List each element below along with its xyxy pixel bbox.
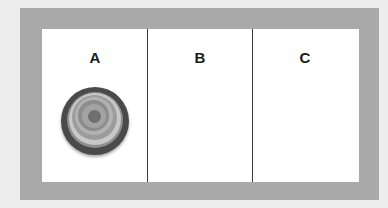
column-label-a: A	[75, 49, 115, 66]
column-divider-bc	[252, 29, 253, 182]
ring-8-center	[88, 110, 101, 123]
column-divider-ab	[147, 29, 148, 182]
column-label-b: B	[180, 49, 220, 66]
column-label-c: C	[285, 49, 325, 66]
